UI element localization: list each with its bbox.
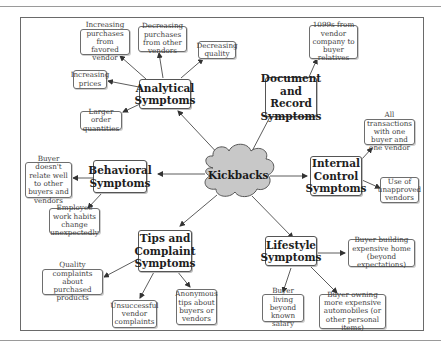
leaf-anonymous-tips: Anonymous tips about buyers or vendors: [176, 289, 217, 325]
category-analytical-symptoms: Analytical Symptoms: [139, 79, 191, 109]
category-tips-complaint-symptoms: Tips and Complaint Symptoms: [138, 230, 192, 272]
leaf-employee-work-habits: Employee work habits change unexpectedly: [49, 208, 100, 234]
leaf-quality-complaints: Quality complaints about purchased produ…: [42, 269, 103, 295]
leaf-buyer-living-beyond-salary: Buyer living beyond known salary: [262, 294, 304, 322]
leaf-all-transactions-one-buyer-vendor: All transactions with one buyer and one …: [364, 119, 415, 145]
leaf-decreasing-purchases-other-vendors: Decreasing purchases from other vendors: [138, 26, 187, 52]
leaf-decreasing-quality: Decreasing quality: [198, 41, 236, 59]
category-behavioral-symptoms: Behavioral Symptoms: [93, 160, 147, 193]
leaf-buyer-owning-expensive-automobiles: Buyer owning more expensive automobiles …: [319, 294, 386, 329]
category-document-record-symptoms: Document and Record Symptoms: [265, 77, 317, 117]
hub-kickbacks: Kickbacks: [208, 169, 268, 181]
category-internal-control-symptoms: Internal Control Symptoms: [310, 156, 362, 196]
leaf-increasing-prices: Increasing prices: [73, 70, 107, 89]
leaf-buyer-doesnt-relate: Buyer doesn't relate well to other buyer…: [25, 162, 72, 198]
leaf-1099s-vendor-buyer-relatives: 1099s from vendor company to buyer relat…: [309, 25, 358, 59]
leaf-increasing-purchases-favored-vendor: Increasing purchases from favored vendor: [80, 29, 130, 55]
leaf-unsuccessful-vendor-complaints: Unsuccessful vendor complaints: [112, 300, 157, 328]
leaf-buyer-building-expensive-home: Buyer building expensive home (beyond ex…: [348, 239, 415, 267]
leaf-larger-order-quantities: Larger order quantities: [80, 111, 122, 130]
leaf-unapproved-vendors: Use of unapproved vendors: [380, 177, 419, 203]
category-lifestyle-symptoms: Lifestyle Symptoms: [265, 236, 317, 266]
category-label: Analytical Symptoms: [135, 82, 196, 107]
